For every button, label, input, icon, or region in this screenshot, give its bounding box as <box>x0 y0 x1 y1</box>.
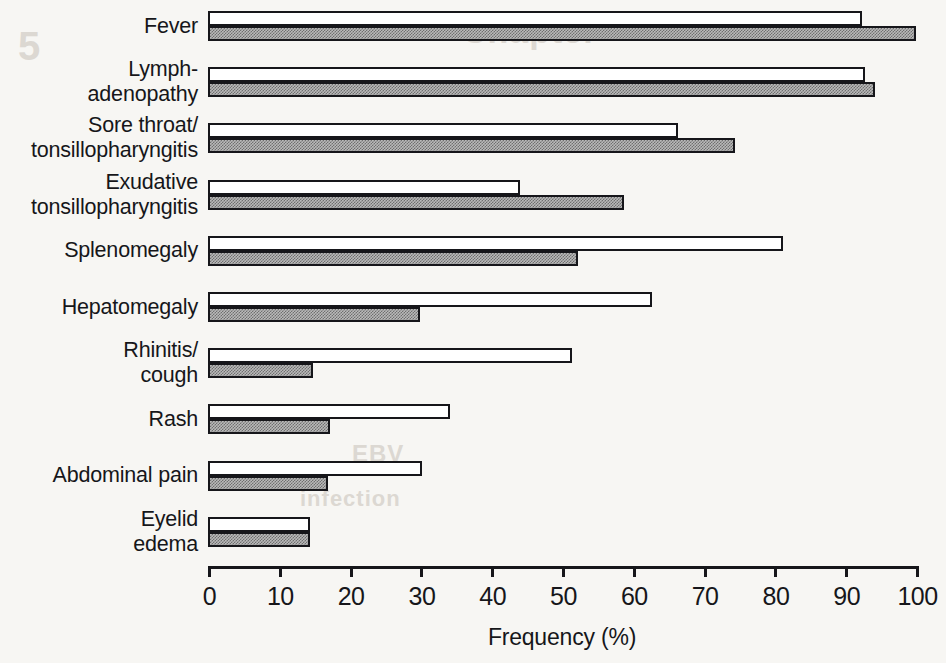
bar-shaded <box>208 138 735 153</box>
bar-shaded <box>208 419 330 434</box>
category-label: Fever <box>0 14 198 39</box>
x-tick <box>916 566 919 577</box>
x-tick <box>491 566 494 577</box>
x-tick-label: 20 <box>338 582 365 611</box>
x-tick <box>704 566 707 577</box>
bar-open <box>208 292 652 307</box>
category-label: Rhinitis/ cough <box>0 338 198 388</box>
category-label: Splenomegaly <box>0 238 198 263</box>
x-tick-label: 0 <box>203 582 216 611</box>
bar-shaded <box>208 26 916 41</box>
category-label: Sore throat/ tonsillopharyngitis <box>0 113 198 163</box>
bar-group <box>208 404 916 434</box>
x-tick <box>633 566 636 577</box>
bar-open <box>208 67 865 82</box>
bar-group <box>208 292 916 322</box>
bar-open <box>208 180 520 195</box>
x-axis-title: Frequency (%) <box>208 624 916 651</box>
x-tick-label: 10 <box>267 582 294 611</box>
x-tick-label: 100 <box>897 582 937 611</box>
bar-open <box>208 517 310 532</box>
x-tick-label: 80 <box>762 582 789 611</box>
bar-shaded <box>208 251 578 266</box>
category-label: Eyelid edema <box>0 507 198 557</box>
x-tick-label: 50 <box>550 582 577 611</box>
bar-shaded <box>208 476 328 491</box>
x-tick-label: 40 <box>479 582 506 611</box>
bar-group <box>208 123 916 153</box>
bar-shaded <box>208 82 875 97</box>
bar-open <box>208 461 422 476</box>
category-label: Lymph- adenopathy <box>0 57 198 107</box>
x-tick <box>350 566 353 577</box>
bar-open <box>208 123 678 138</box>
bar-group <box>208 67 916 97</box>
x-tick <box>279 566 282 577</box>
x-tick <box>774 566 777 577</box>
x-tick-label: 60 <box>621 582 648 611</box>
bar-shaded <box>208 363 313 378</box>
category-label: Abdominal pain <box>0 463 198 488</box>
bar-group <box>208 517 916 547</box>
x-tick <box>420 566 423 577</box>
x-tick-label: 90 <box>833 582 860 611</box>
bar-open <box>208 11 862 26</box>
x-tick-label: 30 <box>408 582 435 611</box>
bar-group <box>208 180 916 210</box>
bar-open <box>208 348 572 363</box>
x-tick <box>208 566 211 577</box>
bar-open <box>208 236 783 251</box>
x-tick-label: 70 <box>692 582 719 611</box>
bar-shaded <box>208 195 624 210</box>
chart-page: 5 Chapter Epstein-Barr Virus EBV infecti… <box>0 0 946 663</box>
bar-group <box>208 236 916 266</box>
bar-shaded <box>208 307 420 322</box>
x-tick <box>562 566 565 577</box>
bar-group <box>208 461 916 491</box>
category-label: Hepatomegaly <box>0 295 198 320</box>
bar-shaded <box>208 532 310 547</box>
bar-open <box>208 404 450 419</box>
bar-group <box>208 11 916 41</box>
category-label: Exudative tonsillopharyngitis <box>0 170 198 220</box>
category-label: Rash <box>0 407 198 432</box>
bar-group <box>208 348 916 378</box>
x-tick <box>845 566 848 577</box>
horizontal-bar-chart: FeverLymph- adenopathySore throat/ tonsi… <box>0 0 946 663</box>
